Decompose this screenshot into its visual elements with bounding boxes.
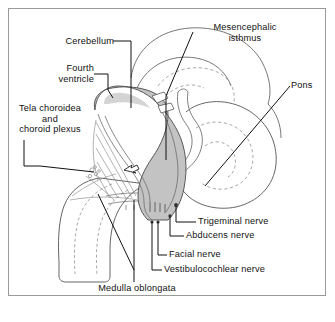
pons-outline xyxy=(172,102,276,209)
label-tela-choroidea: Tela choroidea and choroid plexus xyxy=(8,103,92,135)
label-fourth-ventricle: Fourth ventricle xyxy=(18,63,94,84)
leader-facial xyxy=(158,222,167,255)
pons-internal-dashed xyxy=(196,122,253,189)
leader-abducens xyxy=(170,217,184,236)
caption-text xyxy=(8,305,154,315)
label-pons: Pons xyxy=(291,80,331,91)
medulla-oblongata-shape xyxy=(59,178,146,282)
label-mesencephalic-isthmus: Mesencephalic isthmus xyxy=(196,22,294,43)
leader-trigeminal xyxy=(176,206,196,222)
leader-pons xyxy=(205,86,290,186)
csf-flow-arrow-icon xyxy=(124,165,139,173)
label-vestibulocochlear-nerve: Vestibulocochlear nerve xyxy=(164,264,314,275)
cerebrum-outline xyxy=(131,28,281,138)
leader-vestibulocochlear xyxy=(152,222,162,270)
cerebellum-lobe-outline xyxy=(137,57,231,88)
midbrain-dashed xyxy=(158,68,234,102)
label-abducens-nerve: Abducens nerve xyxy=(186,230,306,241)
label-medulla-oblongata: Medulla oblongata xyxy=(82,283,192,294)
label-trigeminal-nerve: Trigeminal nerve xyxy=(198,216,318,227)
label-facial-nerve: Facial nerve xyxy=(169,249,279,260)
figure-caption xyxy=(8,299,326,319)
leader-tela-choroidea xyxy=(24,140,94,172)
figure-root: Cerebellum Fourth ventricle Tela choroid… xyxy=(0,0,335,322)
label-cerebellum: Cerebellum xyxy=(18,36,114,47)
